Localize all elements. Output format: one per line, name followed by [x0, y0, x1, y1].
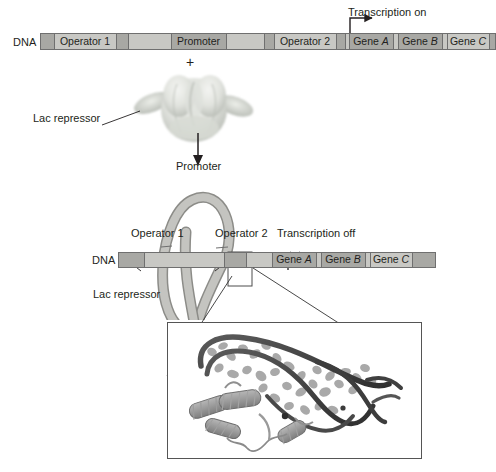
- top-dna-label-promoter: Promoter: [171, 34, 226, 51]
- operator2-label-bottom: Operator 2: [215, 227, 268, 239]
- bottom-dna-segment-spacer: [224, 252, 246, 268]
- bottom-dna-bar: Gene AGene BGene C: [0, 252, 496, 268]
- lac-repressor-label-top: Lac repressor: [33, 112, 100, 124]
- bottom-dna-segment-spacer: [246, 252, 272, 268]
- bottom-panel-diagram: [0, 160, 496, 320]
- top-dna-label-gene-a: Gene A: [349, 34, 393, 51]
- top-dna-segment-spacer: [226, 33, 264, 50]
- bottom-dna-label-gene-c: Gene C: [370, 252, 412, 268]
- top-dna-bar: Operator 1PromoterOperator 2Gene AGene B…: [0, 33, 496, 50]
- plus-sign: +: [186, 56, 194, 68]
- operator1-label-bottom: Operator 1: [131, 227, 184, 239]
- lac-operon-figure: Transcription on DNA Operator 1PromoterO…: [0, 0, 496, 472]
- bottom-dna-label-gene-a: Gene A: [272, 252, 316, 268]
- top-dna-segment-spacer: [128, 33, 171, 50]
- top-dna-segment-spacer: [40, 33, 54, 50]
- transcription-on-arrow: [350, 18, 372, 33]
- bottom-dna-segment-spacer: [412, 252, 436, 268]
- top-dna-label-gene-b: Gene B: [398, 34, 442, 51]
- bottom-dna-segment-spacer: [118, 252, 144, 268]
- transcription-off-label: Transcription off: [277, 227, 355, 239]
- transcription-on-label: Transcription on: [348, 6, 426, 18]
- bottom-dna-segment-spacer: [144, 252, 224, 268]
- top-dna-segment-spacer: [116, 33, 128, 50]
- top-dna-label-operator-2: Operator 2: [274, 34, 336, 51]
- top-dna-label-gene-c: Gene C: [447, 34, 489, 51]
- top-dna-segment-spacer: [336, 33, 345, 50]
- lac-repressor-label-bottom: Lac repressor: [93, 288, 160, 300]
- promoter-label-bottom: Promoter: [176, 160, 221, 172]
- top-dna-segment-spacer: [489, 33, 496, 50]
- top-dna-segment-spacer: [264, 33, 274, 50]
- bottom-dna-label-gene-b: Gene B: [321, 252, 365, 268]
- structure-inset-panel: [167, 322, 422, 459]
- top-dna-label-operator-1: Operator 1: [54, 34, 116, 51]
- structure-inset-svg: [167, 322, 422, 459]
